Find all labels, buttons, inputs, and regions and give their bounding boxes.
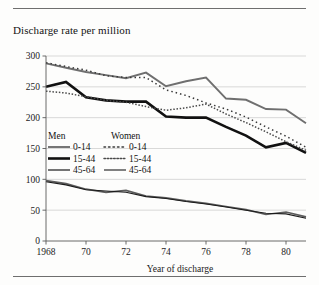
legend-label-men-45-64: 45-64 [73,165,95,175]
data-series-group [46,63,306,218]
y-tick-label: 50 [31,206,41,216]
x-tick-label: 74 [161,247,171,257]
legend-heading-men: Men [48,131,66,141]
x-tick-label: 70 [81,247,91,257]
y-tick-labels: 050100150200250300 [26,51,41,246]
legend-label-men-15-44: 15-44 [73,154,95,164]
x-tick-label: 1968 [37,247,56,257]
chart-legend: MenWomen0-1415-4445-640-1415-4445-64 [48,131,151,175]
y-tick-label: 0 [35,236,40,246]
figure-container: Discharge rate per million 0501001502002… [0,0,319,285]
x-tick-label: 80 [281,247,291,257]
legend-label-women-15-44: 15-44 [129,154,151,164]
y-tick-label: 300 [26,51,41,61]
legend-label-women-0-14: 0-14 [129,142,147,152]
y-tick-label: 150 [26,144,41,154]
line-chart: 050100150200250300 1968707274767880 Year… [0,0,319,285]
x-tick-labels: 1968707274767880 [37,247,292,257]
x-tick-label: 72 [121,247,131,257]
y-tick-label: 100 [26,175,41,185]
legend-heading-women: Women [111,131,141,141]
y-tick-label: 250 [26,82,41,92]
series-line [46,181,306,217]
x-tick-label: 76 [201,247,211,257]
x-axis-title: Year of discharge [147,264,213,274]
x-tick-label: 78 [241,247,251,257]
series-line [46,63,306,147]
axis-ticks [46,241,286,245]
legend-label-men-0-14: 0-14 [73,142,91,152]
legend-label-women-45-64: 45-64 [129,165,151,175]
series-line [46,182,306,218]
y-tick-label: 200 [26,113,41,123]
